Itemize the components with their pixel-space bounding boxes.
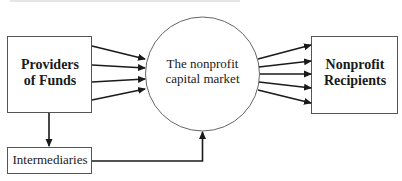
recipients-label: Nonprofit Recipients bbox=[312, 57, 398, 89]
intermediaries-label: Intermediaries bbox=[8, 153, 92, 168]
intermediaries-to-market-arrow bbox=[92, 132, 203, 161]
recipients-label-line1: Nonprofit bbox=[312, 57, 398, 73]
market-label-line2: capital market bbox=[150, 72, 255, 87]
market-to-recipients-arrows bbox=[258, 45, 311, 103]
market-label-line1: The nonprofit bbox=[150, 57, 255, 72]
recipients-label-line2: Recipients bbox=[312, 73, 398, 89]
providers-label-line2: of Funds bbox=[8, 73, 92, 89]
providers-label-line1: Providers bbox=[8, 57, 92, 73]
providers-to-market-arrows bbox=[92, 46, 145, 100]
cutoff-caption bbox=[10, 0, 240, 2]
market-label: The nonprofit capital market bbox=[150, 57, 255, 87]
providers-label: Providers of Funds bbox=[8, 57, 92, 89]
